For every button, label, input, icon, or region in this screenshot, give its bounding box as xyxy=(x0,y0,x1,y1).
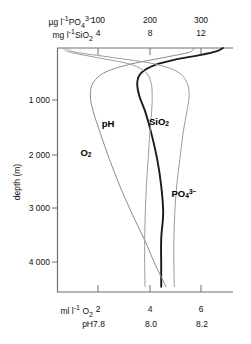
bottom-axis-ticks xyxy=(98,285,201,292)
label-sub: 2 xyxy=(88,151,92,158)
top-axis-ticks xyxy=(98,48,201,55)
curve-label-o2: O2 xyxy=(80,148,91,159)
data-curves xyxy=(63,48,223,287)
label-sup: 3− xyxy=(189,188,197,195)
curve-label-ph: pH xyxy=(102,119,115,129)
curve-po4 xyxy=(66,48,189,287)
curve-ph xyxy=(137,48,223,287)
curve-o2 xyxy=(90,48,193,287)
plot-area xyxy=(0,0,251,344)
label-sub: 2 xyxy=(165,120,169,127)
curve-sio2 xyxy=(63,48,152,287)
curve-label-po4: PO43− xyxy=(172,189,197,200)
curve-label-sio2: SiO2 xyxy=(149,117,169,128)
depth-profile-chart: µg l-1PO43− mg l-1SiO2 100 200 300 4 8 1… xyxy=(0,0,251,344)
